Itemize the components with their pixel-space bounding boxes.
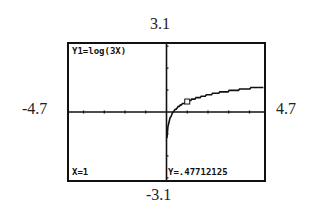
equation-label: Y1=log(3X) bbox=[72, 46, 126, 56]
trace-y-label: Y=.47712125 bbox=[168, 167, 228, 177]
calculator-screen: Y1=log(3X) X=1 Y=.47712125 bbox=[67, 42, 266, 182]
axes bbox=[69, 44, 264, 180]
trace-cursor bbox=[185, 99, 190, 104]
ymin-label: -3.1 bbox=[146, 187, 171, 203]
ymax-label: 3.1 bbox=[150, 16, 170, 32]
graph-plot: Y1=log(3X) X=1 Y=.47712125 bbox=[69, 44, 264, 180]
trace-x-label: X=1 bbox=[72, 167, 88, 177]
xmax-label: 4.7 bbox=[276, 101, 296, 117]
xmin-label: -4.7 bbox=[22, 101, 47, 117]
